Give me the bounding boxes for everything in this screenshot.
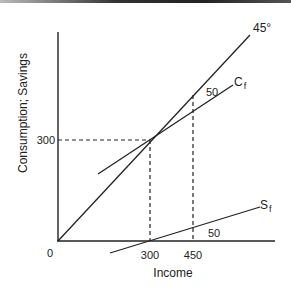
tick-x300: 300	[141, 249, 159, 261]
tick-y300: 300	[37, 134, 55, 146]
label-gap-sf: 50	[208, 227, 220, 239]
label-cf: Cf	[234, 75, 247, 91]
label-45: 45°	[253, 21, 271, 35]
tick-x450: 450	[184, 249, 202, 261]
label-gap-cf: 50	[206, 86, 218, 98]
line-45-degree	[58, 35, 250, 241]
line-cf	[98, 85, 233, 174]
y-axis-title: Consumption; Savings	[16, 53, 30, 173]
tick-origin: 0	[47, 247, 53, 259]
x-axis-title: Income	[153, 266, 193, 280]
line-sf	[110, 207, 260, 253]
consumption-savings-chart: 45° Cf Sf 50 50 0 300 450 300 Income Con…	[0, 0, 291, 294]
label-sf: Sf	[260, 198, 272, 214]
